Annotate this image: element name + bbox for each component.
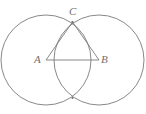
vertex-label-B: B <box>101 54 108 65</box>
vertex-point-C <box>71 21 73 23</box>
segment-AC <box>46 22 73 60</box>
geometry-canvas <box>0 0 146 114</box>
vertex-label-C: C <box>69 6 76 17</box>
segment-BC <box>73 22 100 60</box>
lower-intersection-point <box>72 97 74 99</box>
vertex-label-A: A <box>34 54 41 65</box>
geometry-figure: A B C <box>0 0 146 114</box>
